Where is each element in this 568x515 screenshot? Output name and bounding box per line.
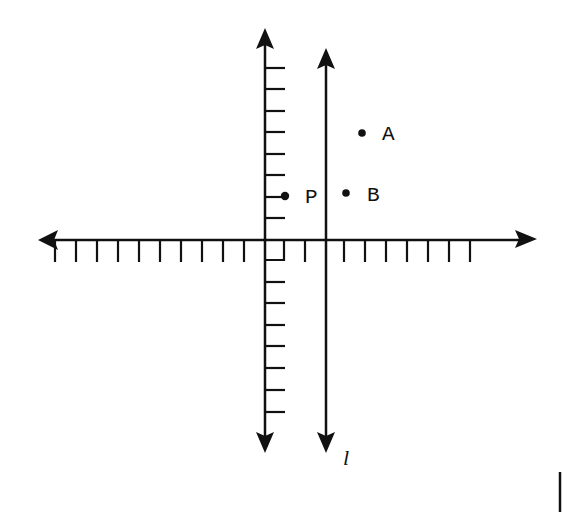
point-a: [358, 129, 366, 137]
right-angle-marker: [265, 240, 284, 260]
label-b: B: [367, 184, 380, 207]
label-line-l: l: [343, 445, 349, 470]
point-b: [342, 189, 350, 197]
label-a: A: [382, 123, 395, 146]
label-p: P: [305, 186, 318, 209]
x-axis-ticks: [55, 240, 470, 262]
point-p: [281, 192, 289, 200]
coordinate-plane-diagram: A B P l: [0, 0, 568, 515]
